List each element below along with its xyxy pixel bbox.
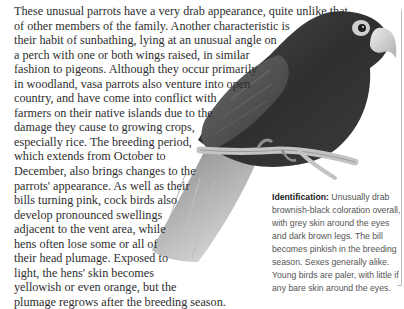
- identification-line: with grey skin around the eyes: [272, 217, 402, 230]
- body-line: especially rice. The breeding period,: [14, 135, 348, 150]
- identification-line: becomes pinkish in the breeding: [272, 243, 402, 256]
- identification-box: Identification: Unusually drab brownish-…: [272, 191, 402, 295]
- body-line: damage they cause to growing crops,: [14, 120, 348, 135]
- identification-line: and dark brown legs. The bill: [272, 230, 402, 243]
- body-line: in woodland, vasa parrots also venture i…: [14, 77, 348, 92]
- identification-line: brownish-black coloration overall,: [272, 204, 402, 217]
- identification-line: season. Sexes generally alike.: [272, 256, 402, 269]
- parrot-eye: [352, 20, 370, 36]
- identification-heading: Identification:: [272, 192, 329, 202]
- body-line: plumage regrows after the breeding seaso…: [14, 295, 348, 309]
- body-line: which extends from October to: [14, 149, 348, 164]
- body-line: December, also brings changes to the: [14, 164, 348, 179]
- body-line: farmers on their native islands due to t…: [14, 106, 348, 121]
- identification-line: Young birds are paler, with little if: [272, 269, 402, 282]
- body-line: fashion to pigeons. Although they occur …: [14, 62, 348, 77]
- body-line: their habit of sunbathing, lying at an u…: [14, 33, 348, 48]
- sidebar-rule: [401, 10, 402, 286]
- body-line: country, and have come into conflict wit…: [14, 91, 348, 106]
- body-line: of other members of the family. Another …: [14, 19, 348, 34]
- sidebar-rule-foot: [397, 285, 402, 286]
- identification-line: Unusually drab: [329, 192, 389, 202]
- body-line: These unusual parrots have a very drab a…: [14, 4, 348, 19]
- body-line: a perch with one or both wings raised, i…: [14, 48, 348, 63]
- identification-line: any bare skin around the eyes.: [272, 282, 402, 295]
